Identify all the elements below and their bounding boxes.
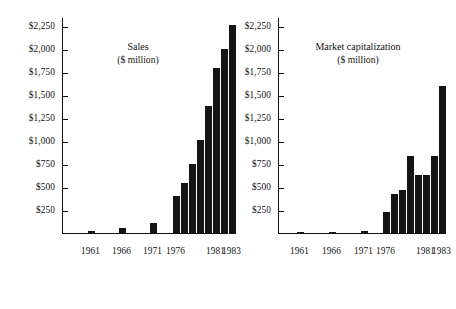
- bar-series-sales: [63, 18, 214, 234]
- bar: [205, 106, 212, 234]
- bar: [173, 196, 180, 234]
- x-axis-labels: 196119661971197619811983: [278, 240, 446, 256]
- bar: [361, 231, 368, 234]
- y-tick-label: $1,750: [245, 68, 271, 77]
- bar: [213, 68, 220, 234]
- bar: [423, 175, 430, 234]
- x-tick-label: 1961: [81, 247, 100, 256]
- y-tick-label: $2,000: [29, 46, 55, 55]
- bar: [189, 164, 196, 234]
- y-tick-label: $1,750: [29, 68, 55, 77]
- x-tick-label: 1976: [166, 247, 185, 256]
- bar: [119, 228, 126, 234]
- y-tick-label: $1,250: [29, 114, 55, 123]
- bar: [150, 223, 157, 234]
- y-tick-label: $2,250: [29, 23, 55, 32]
- x-tick-label: 1971: [354, 247, 373, 256]
- y-tick-label: $250: [36, 206, 55, 215]
- bar: [181, 183, 188, 234]
- y-tick-label: $1,250: [245, 114, 271, 123]
- bar: [297, 232, 304, 234]
- x-tick-label: 1976: [376, 247, 395, 256]
- bar: [407, 156, 414, 234]
- bar: [88, 231, 95, 234]
- x-tick-label: 1966: [322, 247, 341, 256]
- y-tick-label: $1,000: [245, 137, 271, 146]
- y-tick-label: $1,500: [245, 91, 271, 100]
- y-tick-label: $2,000: [245, 46, 271, 55]
- chart-panel-sales: Sales ($ million) $250$500$750$1,000$1,2…: [0, 0, 228, 309]
- plot-area-sales: $250$500$750$1,000$1,250$1,500$1,750$2,0…: [62, 18, 214, 266]
- bar: [329, 232, 336, 234]
- y-tick-label: $750: [36, 160, 55, 169]
- x-axis-labels: 196119661971197619811983: [62, 240, 222, 256]
- y-tick-label: $750: [252, 160, 271, 169]
- y-tick-label: $1,500: [29, 91, 55, 100]
- bar: [383, 212, 390, 234]
- y-tick-label: $500: [252, 183, 271, 192]
- x-tick-label: 1983: [432, 247, 451, 256]
- bar: [197, 140, 204, 234]
- y-tick-label: $250: [252, 206, 271, 215]
- x-tick-label: 1966: [112, 247, 131, 256]
- bar: [431, 156, 438, 234]
- x-tick-label: 1961: [290, 247, 309, 256]
- bar-series-market-capitalization: [279, 18, 438, 234]
- x-tick-label: 1971: [143, 247, 162, 256]
- y-tick-label: $1,000: [29, 137, 55, 146]
- y-tick-label: $500: [36, 183, 55, 192]
- chart-panel-market-capitalization: Market capitalization ($ million) $250$5…: [228, 0, 456, 309]
- figure-root: Sales ($ million) $250$500$750$1,000$1,2…: [0, 0, 456, 309]
- bar: [415, 175, 422, 234]
- bar: [439, 86, 446, 234]
- y-tick-label: $2,250: [245, 23, 271, 32]
- plot-area-market-capitalization: $250$500$750$1,000$1,250$1,500$1,750$2,0…: [278, 18, 438, 266]
- bar: [399, 190, 406, 234]
- bar: [391, 194, 398, 234]
